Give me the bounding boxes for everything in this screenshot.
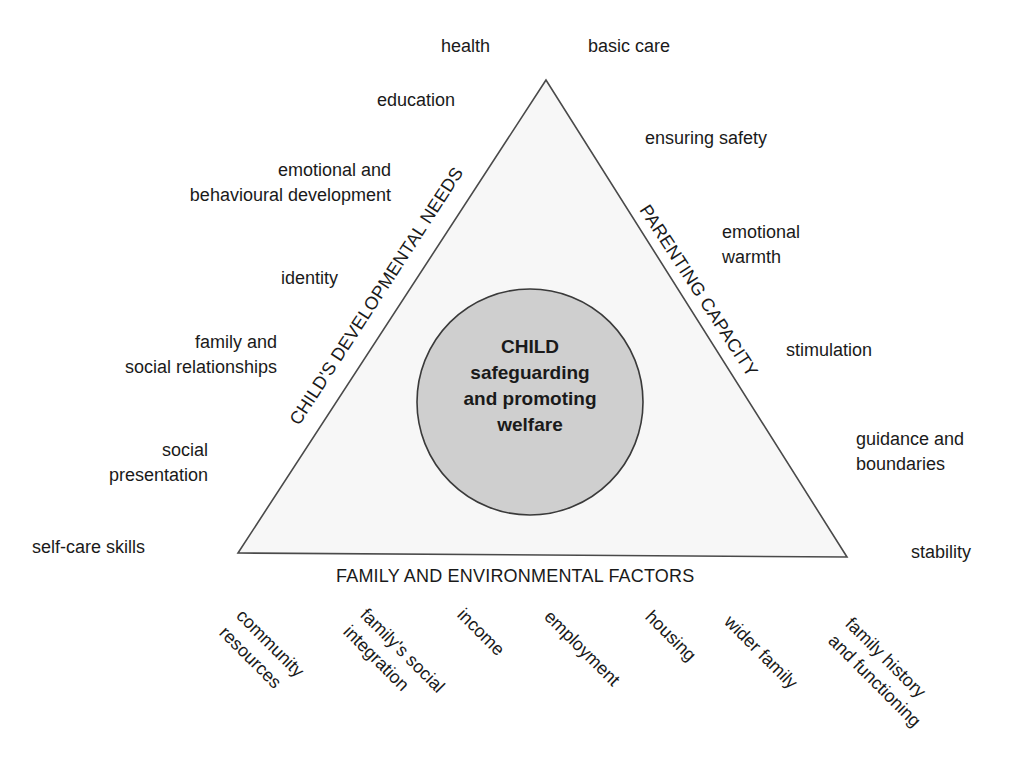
- need-education-text: education: [300, 88, 455, 113]
- capacity-safety-text: ensuring safety: [645, 126, 767, 151]
- capacity-warmth-line-1: emotional: [722, 220, 800, 245]
- need-emotional-line-1: emotional and: [130, 158, 391, 183]
- need-social-line-1: social: [70, 438, 208, 463]
- side-label-family-environmental: FAMILY AND ENVIRONMENTAL FACTORS: [336, 566, 694, 587]
- capacity-basic-care: basic care: [588, 34, 670, 59]
- center-line-4: welfare: [430, 412, 630, 438]
- need-identity-text: identity: [238, 266, 338, 291]
- capacity-guidance-boundaries: guidance and boundaries: [856, 427, 964, 477]
- need-health-text: health: [390, 34, 490, 59]
- capacity-ensuring-safety: ensuring safety: [645, 126, 767, 151]
- center-title: CHILD: [430, 334, 630, 360]
- center-label: CHILD safeguarding and promoting welfare: [430, 334, 630, 438]
- need-self-care-text: self-care skills: [32, 535, 145, 560]
- need-social-presentation: social presentation: [70, 438, 208, 488]
- capacity-stability-text: stability: [911, 540, 971, 565]
- need-health: health: [390, 34, 490, 59]
- need-emotional-behavioural: emotional and behavioural development: [130, 158, 391, 208]
- capacity-basic-care-text: basic care: [588, 34, 670, 59]
- need-education: education: [300, 88, 455, 113]
- capacity-guidance-line-2: boundaries: [856, 452, 964, 477]
- need-self-care: self-care skills: [32, 535, 145, 560]
- capacity-stimulation-text: stimulation: [786, 338, 872, 363]
- need-family-line-2: social relationships: [70, 355, 277, 380]
- capacity-stimulation: stimulation: [786, 338, 872, 363]
- capacity-emotional-warmth: emotional warmth: [722, 220, 800, 270]
- capacity-stability: stability: [911, 540, 971, 565]
- center-line-2: safeguarding: [430, 360, 630, 386]
- need-family-line-1: family and: [70, 330, 277, 355]
- need-family-social: family and social relationships: [70, 330, 277, 380]
- center-line-3: and promoting: [430, 386, 630, 412]
- capacity-warmth-line-2: warmth: [722, 245, 800, 270]
- need-emotional-line-2: behavioural development: [130, 183, 391, 208]
- assessment-framework-diagram: CHILD safeguarding and promoting welfare…: [0, 0, 1012, 766]
- need-social-line-2: presentation: [70, 463, 208, 488]
- capacity-guidance-line-1: guidance and: [856, 427, 964, 452]
- need-identity: identity: [238, 266, 338, 291]
